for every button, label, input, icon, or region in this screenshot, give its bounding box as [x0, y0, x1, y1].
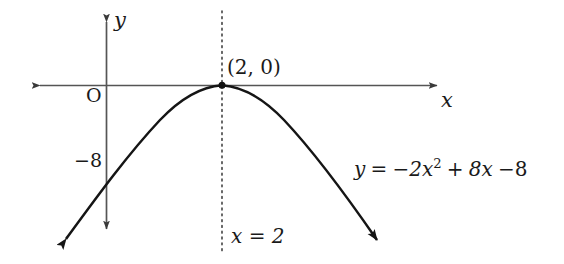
parabola-figure: y x O −8 (2, 0) x = 2 y=−2x2+8x−8: [0, 0, 564, 264]
equation-term3: −8: [498, 157, 527, 181]
y-axis-label: y: [114, 10, 126, 31]
equation-equals: =: [371, 157, 388, 181]
vertex-point-marker: [219, 82, 226, 89]
equation-plus: +: [447, 157, 464, 181]
origin-label: O: [86, 86, 102, 105]
equation-term2: 8x: [469, 157, 493, 181]
vertex-coordinate-label: (2, 0): [227, 57, 281, 77]
equation-label: y=−2x2+8x−8: [354, 159, 527, 179]
axis-of-symmetry-label: x = 2: [231, 226, 284, 246]
x-axis-label: x: [441, 90, 453, 111]
y-intercept-label: −8: [74, 151, 102, 170]
equation-exponent: 2: [433, 156, 441, 171]
equation-term1: −2x: [392, 157, 433, 181]
equation-y: y: [354, 157, 365, 181]
